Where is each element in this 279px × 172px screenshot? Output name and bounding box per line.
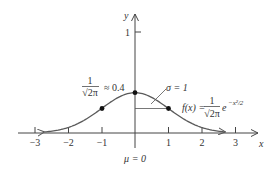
sigma-label: σ = 1 (166, 82, 188, 93)
svg-text:≈ 0.4: ≈ 0.4 (104, 82, 125, 93)
function-label: f(x) = 1 √2π e −x²/2 (182, 95, 244, 119)
x-tick-label: −2 (63, 137, 74, 148)
svg-text:1: 1 (210, 95, 215, 106)
point-peak (133, 90, 138, 95)
x-tick-label: −3 (30, 137, 41, 148)
svg-text:−x²/2: −x²/2 (228, 99, 244, 107)
x-tick-label: 3 (233, 137, 238, 148)
x-tick-label: 1 (166, 137, 171, 148)
point-plus-one (166, 106, 171, 111)
svg-text:e: e (222, 102, 227, 113)
x-tick-label: −1 (97, 137, 108, 148)
x-tick-label: 2 (200, 137, 205, 148)
x-axis-label: x (258, 138, 264, 149)
normal-distribution-chart: x y −3 −2 −1 1 2 3 1 1 √2π ≈ 0.4 σ = 1 f… (0, 0, 279, 172)
mu-label: μ = 0 (123, 153, 146, 164)
svg-text:√2π: √2π (82, 87, 98, 98)
y-axis-label: y (123, 10, 129, 21)
x-tick-labels: −3 −2 −1 1 2 3 (30, 137, 238, 148)
svg-text:√2π: √2π (204, 108, 220, 119)
svg-text:1: 1 (88, 75, 93, 86)
y-tick-label: 1 (125, 27, 130, 38)
peak-label: 1 √2π ≈ 0.4 (82, 75, 125, 98)
svg-text:f(x) =: f(x) = (182, 102, 205, 114)
point-minus-one (100, 106, 105, 111)
